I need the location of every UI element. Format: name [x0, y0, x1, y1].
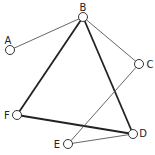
edge-e-d — [68, 134, 133, 144]
edge-c-e — [68, 64, 139, 144]
node-f: F — [4, 110, 21, 121]
node-label: E — [54, 139, 60, 150]
node-label: A — [5, 35, 12, 46]
edges — [10, 17, 139, 144]
node-a: A — [5, 35, 15, 55]
node-circle-icon — [13, 111, 22, 120]
node-label: B — [80, 2, 87, 13]
node-circle-icon — [79, 13, 88, 22]
node-e: E — [54, 139, 73, 150]
node-circle-icon — [6, 46, 15, 55]
node-d: D — [129, 128, 148, 139]
graph-diagram: ABCDEF — [0, 0, 155, 155]
node-label: F — [4, 110, 10, 121]
edge-f-d — [17, 115, 133, 134]
node-c: C — [135, 59, 154, 70]
node-circle-icon — [64, 140, 73, 149]
node-label: D — [139, 128, 147, 139]
node-circle-icon — [129, 130, 138, 139]
node-b: B — [79, 2, 88, 22]
node-circle-icon — [135, 60, 144, 69]
edge-b-c — [83, 17, 139, 64]
node-label: C — [147, 59, 154, 70]
edge-b-d — [83, 17, 133, 134]
